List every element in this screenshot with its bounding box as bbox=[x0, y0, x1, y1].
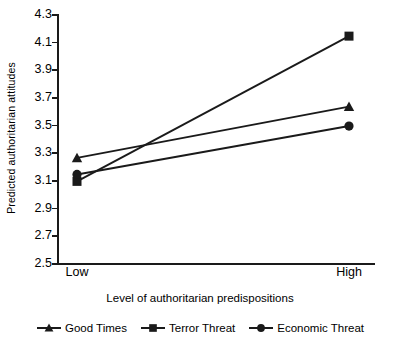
y-axis-tick-label: 2.7 bbox=[35, 229, 52, 242]
x-axis-title: Level of authoritarian predispositions bbox=[0, 292, 400, 304]
data-point-marker bbox=[344, 101, 354, 110]
x-axis-tick-labels: LowHigh bbox=[57, 266, 375, 284]
series-line bbox=[77, 36, 349, 181]
line-chart-figure: Predicted authoritarian attitudes 4.34.1… bbox=[0, 0, 400, 349]
y-axis-title: Predicted authoritarian attitudes bbox=[0, 0, 22, 275]
legend-item-label: Terror Threat bbox=[169, 322, 235, 334]
series-terror-threat bbox=[73, 32, 354, 186]
y-axis-tick-label: 3.1 bbox=[35, 174, 52, 187]
data-point-marker bbox=[72, 170, 81, 179]
y-axis-tick-label: 3.9 bbox=[35, 63, 52, 76]
y-axis-tick-label: 4.1 bbox=[35, 35, 52, 48]
legend-item: Economic Threat bbox=[248, 322, 364, 334]
x-axis-tick-label: High bbox=[336, 266, 362, 279]
y-axis-tick-label: 4.3 bbox=[35, 8, 52, 21]
x-axis-tick-label: Low bbox=[66, 266, 89, 279]
legend-item-label: Economic Threat bbox=[277, 322, 364, 334]
y-axis-tick-label: 3.3 bbox=[35, 146, 52, 159]
plot-area bbox=[57, 14, 375, 263]
legend-item: Good Times bbox=[36, 322, 127, 334]
y-axis-tick-label: 3.7 bbox=[35, 91, 52, 104]
y-axis-tick-labels: 4.34.13.93.73.53.33.12.92.72.5 bbox=[20, 0, 52, 280]
triangle-marker-icon bbox=[36, 322, 62, 334]
legend-item-label: Good Times bbox=[65, 322, 127, 334]
square-marker-icon bbox=[140, 322, 166, 334]
data-point-marker bbox=[344, 121, 353, 130]
y-axis-tick-label: 2.9 bbox=[35, 201, 52, 214]
series-plot bbox=[57, 14, 375, 265]
y-axis-title-text: Predicted authoritarian attitudes bbox=[5, 62, 17, 214]
circle-marker-icon bbox=[248, 322, 274, 334]
y-axis-tick-label: 2.5 bbox=[35, 257, 52, 270]
legend-item: Terror Threat bbox=[140, 322, 235, 334]
chart-legend: Good TimesTerror ThreatEconomic Threat bbox=[0, 322, 400, 334]
data-point-marker bbox=[345, 32, 354, 41]
y-axis-tick-label: 3.5 bbox=[35, 118, 52, 131]
